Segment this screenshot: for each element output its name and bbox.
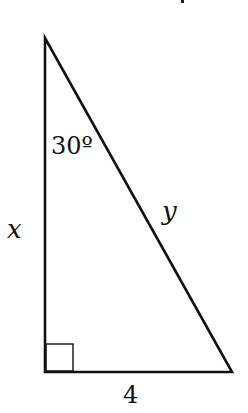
triangle-diagram: [0, 0, 248, 413]
right-angle-marker: [46, 344, 73, 371]
base-label: 4: [123, 383, 138, 407]
angle-label: 30º: [51, 134, 93, 158]
vertical-side-label: x: [7, 216, 22, 242]
hypotenuse-label: y: [162, 198, 177, 224]
triangle-outline: [45, 38, 232, 372]
